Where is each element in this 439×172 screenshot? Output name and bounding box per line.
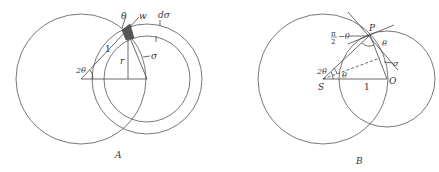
sigma-line [128, 33, 147, 79]
label-w: w [139, 11, 147, 21]
angle-arc-theta [331, 72, 333, 79]
label-one-b: 1 [364, 82, 370, 92]
label-theta-right: θ [382, 39, 387, 48]
label-sigma-b: σ [393, 59, 399, 68]
caption-a: A [114, 150, 122, 160]
label-theta-inner: θ [342, 71, 347, 80]
dashed-line [323, 58, 380, 79]
label-P: P [368, 23, 376, 33]
figure-b: P π 2 −θ θ σ 2θ θ S 1 O B [258, 12, 435, 166]
label-two-theta-a: 2θ [75, 66, 86, 75]
caption-b: B [355, 156, 363, 166]
diagram-canvas: θ w dσ 1 r σ 2θ A P π 2 −θ θ [0, 0, 439, 172]
figure-a: θ w dσ 1 r σ 2θ A [16, 10, 202, 160]
label-r: r [120, 56, 125, 66]
label-O: O [389, 76, 397, 86]
label-one-a: 1 [105, 44, 111, 54]
label-minus-theta: −θ [338, 32, 350, 41]
sigma-leader [143, 56, 150, 57]
label-S: S [318, 82, 324, 92]
label-d-sigma: dσ [158, 10, 171, 20]
label-two-theta-b: 2θ [316, 67, 327, 76]
label-sigma-a: σ [151, 51, 158, 61]
label-two: 2 [331, 38, 335, 46]
angle-arc-p [362, 43, 374, 46]
angle-arc-two-theta [334, 68, 337, 74]
label-theta-a: θ [121, 11, 127, 21]
